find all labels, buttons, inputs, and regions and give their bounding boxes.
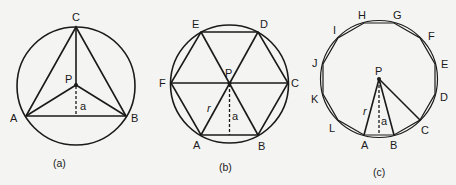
vertex-label-g: G <box>393 9 402 21</box>
vertex-label-k: K <box>311 93 319 105</box>
panel-a-triangle: C A B P a (a) <box>10 11 138 169</box>
caption-b: (b) <box>219 161 232 173</box>
caption-a: (a) <box>53 157 66 169</box>
vertex-label-l: L <box>329 122 335 134</box>
center-point-b <box>228 82 232 86</box>
vertex-label-a: A <box>10 112 18 124</box>
vertex-label-d: D <box>260 18 268 30</box>
vertex-label-f: F <box>159 77 166 89</box>
panel-b-hexagon: E D F C A B P r a (b) <box>159 18 299 173</box>
vertex-label-e: E <box>441 58 448 70</box>
vertex-label-b: B <box>390 139 397 151</box>
apothem-label-a: a <box>80 100 87 112</box>
center-point-a <box>74 83 78 87</box>
vertex-label-a: A <box>361 139 369 151</box>
center-label-p: P <box>65 73 72 85</box>
segment-pa <box>26 85 76 116</box>
vertex-label-c: C <box>72 11 80 23</box>
inscribed-polygons-figure: C A B P a (a) E D F C A B P r a (b) A B <box>0 0 456 185</box>
vertex-label-c: C <box>421 124 429 136</box>
apothem-label-a: a <box>381 115 388 127</box>
radius-label-r: r <box>363 105 368 117</box>
center-point-c <box>377 77 381 81</box>
vertex-label-i: I <box>333 24 336 36</box>
apothem-label-a: a <box>232 110 239 122</box>
vertex-label-h: H <box>358 9 366 21</box>
vertex-label-b: B <box>258 140 265 152</box>
vertex-label-f: F <box>428 30 435 42</box>
caption-c: (c) <box>373 166 385 178</box>
panel-c-dodecagon: A B C D E F G H I J K L P r a (c) <box>311 9 448 178</box>
vertex-label-e: E <box>192 18 199 30</box>
vertex-label-c: C <box>291 77 299 89</box>
radius-label-r: r <box>207 102 212 114</box>
vertex-label-a: A <box>193 139 201 151</box>
vertex-label-d: D <box>440 91 448 103</box>
center-label-p: P <box>225 67 232 79</box>
center-label-p: P <box>375 65 382 77</box>
vertex-label-b: B <box>131 112 138 124</box>
vertex-label-j: J <box>312 57 318 69</box>
